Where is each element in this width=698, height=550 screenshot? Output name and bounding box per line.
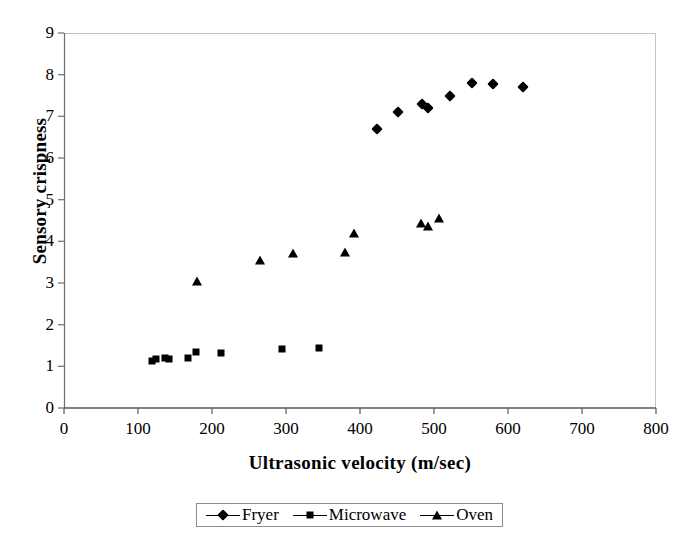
y-tick-label: 9 — [28, 24, 54, 41]
y-tick-label: 1 — [28, 357, 54, 374]
data-point-microwave — [152, 355, 159, 362]
y-axis-title: Sensory crispness — [29, 71, 51, 311]
triangle-marker-icon — [420, 508, 454, 522]
square-marker-icon — [293, 508, 327, 522]
data-point-oven — [434, 213, 444, 222]
y-tick-label: 0 — [28, 399, 54, 416]
data-point-oven — [340, 248, 350, 257]
x-tick-label: 500 — [409, 420, 459, 437]
data-point-microwave — [278, 345, 285, 352]
x-tick-label: 0 — [39, 420, 89, 437]
x-axis-title: Ultrasonic velocity (m/sec) — [64, 452, 656, 474]
x-tick-label: 800 — [631, 420, 681, 437]
data-point-microwave — [185, 355, 192, 362]
diamond-marker-icon — [206, 508, 240, 522]
data-point-oven — [255, 256, 265, 265]
data-point-oven — [423, 222, 433, 231]
chart-legend: FryerMicrowaveOven — [196, 503, 503, 527]
legend-item-oven[interactable]: Oven — [420, 506, 493, 523]
data-point-oven — [192, 276, 202, 285]
legend-item-fryer[interactable]: Fryer — [206, 506, 279, 523]
y-axis-ticks — [58, 33, 64, 408]
data-point-oven — [288, 248, 298, 257]
x-tick-label: 700 — [557, 420, 607, 437]
legend-label: Oven — [454, 506, 493, 523]
legend-label: Fryer — [240, 506, 279, 523]
x-tick-label: 100 — [113, 420, 163, 437]
data-point-microwave — [316, 344, 323, 351]
data-point-microwave — [192, 349, 199, 356]
x-tick-label: 200 — [187, 420, 237, 437]
legend-label: Microwave — [327, 506, 406, 523]
x-tick-label: 300 — [261, 420, 311, 437]
scatter-chart: 0123456789 0100200300400500600700800 Sen… — [0, 0, 698, 550]
x-axis-ticks — [64, 408, 656, 414]
data-point-oven — [349, 228, 359, 237]
data-point-microwave — [217, 350, 224, 357]
x-tick-label: 400 — [335, 420, 385, 437]
y-tick-label: 2 — [28, 316, 54, 333]
data-point-microwave — [166, 356, 173, 363]
legend-item-microwave[interactable]: Microwave — [293, 506, 406, 523]
x-tick-label: 600 — [483, 420, 533, 437]
